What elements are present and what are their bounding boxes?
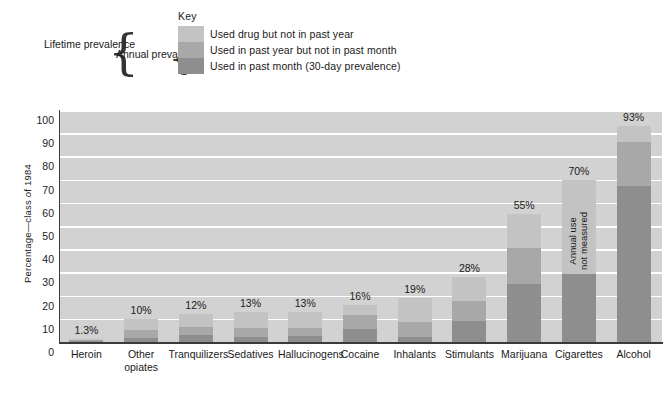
stacked-bar[interactable] [288, 312, 322, 342]
bar-segment [69, 341, 103, 342]
bar-segment [398, 322, 432, 337]
y-tick-label: 80 [24, 160, 54, 172]
x-axis-label: Marijuana [497, 348, 552, 361]
x-axis-label: Alcohol [606, 348, 661, 361]
bar-segment [234, 328, 268, 337]
bars-container: 1.3%10%12%13%13%16%19%28%55%70%Annual us… [59, 110, 661, 342]
x-axis-line [59, 342, 663, 344]
x-axis-label: Hallucinogens [278, 348, 333, 361]
bar-annotation: Annual use not measured [568, 206, 590, 276]
bar-value-label: 13% [240, 297, 261, 309]
y-tick-label: 30 [24, 276, 54, 288]
bar-value-label: 93% [623, 111, 644, 123]
stacked-bar[interactable] [234, 312, 268, 342]
stacked-bar[interactable] [452, 277, 486, 342]
y-tick-label: 70 [24, 184, 54, 196]
key-swatch-monthly [178, 58, 204, 74]
y-tick-label: 50 [24, 230, 54, 242]
bar-segment [507, 248, 541, 283]
bar-chart: Percentage—class of 1984 010203040506070… [0, 100, 666, 398]
stacked-bar[interactable] [69, 339, 103, 342]
bar-value-label: 55% [514, 199, 535, 211]
stacked-bar[interactable] [179, 314, 213, 342]
bar-segment [343, 305, 377, 315]
stacked-bar[interactable] [507, 214, 541, 342]
y-axis-ticks: 0102030405060708090100 [24, 110, 54, 342]
y-tick-label: 40 [24, 253, 54, 265]
x-axis-label: Inhalants [387, 348, 442, 361]
key-swatch-annual [178, 42, 204, 58]
x-axis-label: Cigarettes [552, 348, 607, 361]
key-swatch-lifetime [178, 26, 204, 42]
x-axis-label: Sedatives [223, 348, 278, 361]
y-tick-label: 0 [24, 346, 54, 358]
x-axis-label: Cocaine [333, 348, 388, 361]
y-tick-label: 10 [24, 323, 54, 335]
key-item-label-0: Used drug but not in past year [210, 28, 354, 40]
bar-value-label: 19% [404, 283, 425, 295]
bar-group[interactable]: 19% [387, 110, 442, 342]
bar-value-label: 12% [185, 299, 206, 311]
bar-value-label: 13% [295, 297, 316, 309]
bar-value-label: 28% [459, 262, 480, 274]
stacked-bar[interactable] [398, 298, 432, 342]
bar-segment [398, 298, 432, 322]
bar-segment [562, 274, 596, 342]
bar-segment [288, 328, 322, 336]
annual-prevalence-label: Annual prevalence [116, 48, 168, 60]
bar-value-label: 70% [568, 165, 589, 177]
bar-value-label: 10% [131, 304, 152, 316]
bar-group[interactable]: 1.3% [59, 110, 114, 342]
bar-segment [343, 329, 377, 342]
bar-group[interactable]: 93% [606, 110, 661, 342]
bar-segment [343, 315, 377, 328]
bar-segment [179, 335, 213, 342]
bar-segment [617, 142, 651, 186]
key-item-label-2: Used in past month (30-day prevalence) [210, 60, 401, 72]
bar-segment [179, 327, 213, 335]
bar-segment [398, 337, 432, 342]
x-axis-label: Tranquilizers [168, 348, 223, 361]
bar-group[interactable]: 28% [442, 110, 497, 342]
bar-segment [179, 314, 213, 327]
bar-segment [617, 186, 651, 342]
bar-segment [617, 126, 651, 142]
stacked-bar[interactable] [617, 126, 651, 342]
key-title: Key [178, 10, 197, 22]
bar-segment [288, 312, 322, 328]
key-item-label-1: Used in past year but not in past month [210, 44, 397, 56]
bar-value-label: 16% [349, 290, 370, 302]
bar-segment [234, 337, 268, 342]
bar-segment [124, 338, 158, 342]
bar-segment [124, 330, 158, 337]
bar-group[interactable]: 13% [223, 110, 278, 342]
bar-segment [288, 336, 322, 342]
x-axis-label: Stimulants [442, 348, 497, 361]
lifetime-prevalence-label: Lifetime prevalence [44, 38, 106, 50]
x-axis-label: Other opiates [114, 348, 169, 374]
bar-segment [452, 277, 486, 301]
bar-group[interactable]: 70%Annual use not measured [552, 110, 607, 342]
stacked-bar[interactable] [343, 305, 377, 342]
x-axis-label: Heroin [59, 348, 114, 361]
y-tick-label: 60 [24, 207, 54, 219]
bar-segment [124, 319, 158, 331]
bar-group[interactable]: 13% [278, 110, 333, 342]
y-tick-label: 100 [24, 114, 54, 126]
key-legend: Lifetime prevalence { Annual prevalence … [0, 0, 666, 100]
bar-group[interactable]: 16% [333, 110, 388, 342]
y-tick-label: 20 [24, 300, 54, 312]
bar-segment [234, 312, 268, 328]
bar-segment [507, 284, 541, 342]
bar-segment [507, 214, 541, 248]
bar-group[interactable]: 10% [114, 110, 169, 342]
stacked-bar[interactable] [124, 319, 158, 342]
bar-group[interactable]: 12% [168, 110, 223, 342]
bar-group[interactable]: 55% [497, 110, 552, 342]
key-swatch [178, 26, 204, 74]
bar-segment [452, 321, 486, 342]
y-tick-label: 90 [24, 137, 54, 149]
bar-value-label: 1.3% [74, 324, 98, 336]
bar-segment [452, 301, 486, 322]
